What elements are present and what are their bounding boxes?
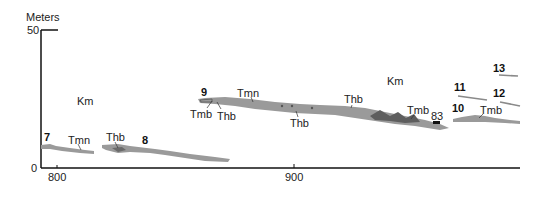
section-number-12: 12	[493, 88, 505, 99]
section-number-10: 10	[452, 103, 464, 114]
unit-8-body	[102, 144, 230, 162]
y-axis-label: Meters	[26, 12, 60, 23]
formation-km-left: Km	[77, 96, 94, 107]
section-number-8: 8	[142, 135, 148, 146]
unit-13-line	[499, 75, 518, 76]
section-number-7: 7	[44, 132, 50, 143]
marker-dot	[281, 105, 283, 107]
unit-label-tmb-right: Tmb	[407, 105, 429, 116]
marker-dot	[311, 107, 313, 109]
unit-label-thb-9: Thb	[217, 111, 236, 122]
section-number-11: 11	[454, 82, 466, 93]
unit-12-line	[500, 102, 520, 106]
section-number-13: 13	[493, 63, 505, 74]
y-tick-50: 50	[27, 25, 39, 36]
marker-dot	[291, 105, 293, 107]
unit-label-tmn-9: Tmn	[237, 88, 259, 99]
x-tick-label-900: 900	[285, 172, 303, 183]
unit-10-body	[453, 115, 520, 124]
y-tick-0: 0	[31, 163, 37, 174]
unit-11-line	[458, 96, 487, 100]
unit-label-thb-8: Thb	[106, 132, 125, 143]
unit-label-tmn-7: Tmn	[68, 135, 90, 146]
x-tick-label-800: 800	[48, 172, 66, 183]
unit-label-tmb-10: Tmb	[480, 105, 502, 116]
unit-label-tmb-9: Tmb	[190, 109, 212, 120]
sample-label-83: 83	[431, 111, 443, 122]
section-number-9: 9	[201, 87, 207, 98]
unit-label-thb-mid: Thb	[290, 118, 309, 129]
unit-label-thb-upper: Thb	[344, 94, 363, 105]
formation-km-right: Km	[387, 76, 404, 87]
